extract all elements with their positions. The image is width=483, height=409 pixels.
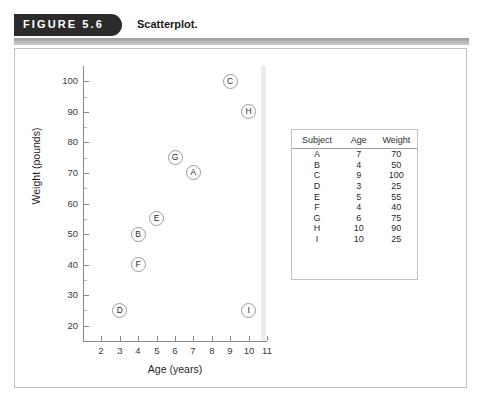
y-tick-100 xyxy=(84,81,89,82)
x-tick-6 xyxy=(175,336,176,341)
cell-weight: 55 xyxy=(376,191,417,202)
y-tick-label-60: 60 xyxy=(52,198,78,209)
y-tick-label-100: 100 xyxy=(52,75,78,86)
cell-weight: 25 xyxy=(376,181,417,192)
plot-right-shading xyxy=(261,66,266,342)
table-body: A770B450C9100D325E555F440G675H1090I1025 xyxy=(292,149,417,245)
y-tick-label-70: 70 xyxy=(52,167,78,178)
x-tick-2 xyxy=(101,336,102,341)
x-tick-11 xyxy=(267,336,268,341)
data-point-B: B xyxy=(131,227,146,242)
y-tick-label-20: 20 xyxy=(52,320,78,331)
data-point-G: G xyxy=(168,150,183,165)
cell-weight: 100 xyxy=(376,170,417,181)
figure-caption: Scatterplot. xyxy=(137,18,198,30)
cell-weight: 90 xyxy=(376,223,417,234)
y-tick-90 xyxy=(84,112,89,113)
header-divider xyxy=(14,38,469,45)
y-tick-85 xyxy=(84,127,87,128)
table-row: D325 xyxy=(292,181,417,192)
y-tick-35 xyxy=(84,280,87,281)
x-tick-8 xyxy=(212,336,213,341)
cell-weight: 25 xyxy=(376,234,417,245)
cell-subject: A xyxy=(292,149,342,160)
y-tick-label-80: 80 xyxy=(52,136,78,147)
cell-age: 10 xyxy=(342,223,376,234)
x-tick-5 xyxy=(157,336,158,341)
cell-subject: F xyxy=(292,202,342,213)
table-header-row: Subject Age Weight xyxy=(292,130,417,149)
figure-number-label: FIGURE 5.6 xyxy=(23,18,104,30)
y-tick-25 xyxy=(84,310,87,311)
y-tick-30 xyxy=(84,295,89,296)
column-header-subject: Subject xyxy=(292,130,342,149)
column-header-age: Age xyxy=(342,130,376,149)
x-tick-4 xyxy=(138,336,139,341)
x-tick-7 xyxy=(193,336,194,341)
cell-subject: B xyxy=(292,160,342,171)
cell-weight: 40 xyxy=(376,202,417,213)
cell-subject: D xyxy=(292,181,342,192)
y-tick-65 xyxy=(84,188,87,189)
cell-age: 5 xyxy=(342,191,376,202)
data-point-C: C xyxy=(223,74,238,89)
y-tick-55 xyxy=(84,219,87,220)
data-point-F: F xyxy=(131,257,146,272)
x-tick-3 xyxy=(120,336,121,341)
x-tick-label-8: 8 xyxy=(202,345,222,356)
table-row: B450 xyxy=(292,160,417,171)
y-tick-label-50: 50 xyxy=(52,228,78,239)
x-axis-line xyxy=(83,341,267,342)
y-tick-95 xyxy=(84,97,87,98)
cell-age: 10 xyxy=(342,234,376,245)
y-tick-50 xyxy=(84,234,89,235)
table-row: H1090 xyxy=(292,223,417,234)
x-axis-title: Age (years) xyxy=(83,363,267,375)
x-tick-label-10: 10 xyxy=(239,345,259,356)
table-row: F440 xyxy=(292,202,417,213)
x-tick-label-3: 3 xyxy=(110,345,130,356)
cell-subject: I xyxy=(292,234,342,245)
cell-subject: H xyxy=(292,223,342,234)
cell-weight: 50 xyxy=(376,160,417,171)
x-tick-label-11: 11 xyxy=(257,345,277,356)
x-tick-10 xyxy=(249,336,250,341)
data-table-container: Subject Age Weight A770B450C9100D325E555… xyxy=(291,129,418,280)
table-row: A770 xyxy=(292,149,417,160)
data-point-I: I xyxy=(241,303,256,318)
y-tick-label-40: 40 xyxy=(52,259,78,270)
figure-header: FIGURE 5.6 Scatterplot. xyxy=(14,14,469,36)
x-tick-label-2: 2 xyxy=(91,345,111,356)
x-tick-label-5: 5 xyxy=(147,345,167,356)
cell-weight: 75 xyxy=(376,213,417,224)
y-tick-75 xyxy=(84,158,87,159)
data-table: Subject Age Weight A770B450C9100D325E555… xyxy=(292,130,417,244)
table-row: C9100 xyxy=(292,170,417,181)
y-tick-70 xyxy=(84,173,89,174)
cell-age: 9 xyxy=(342,170,376,181)
y-tick-40 xyxy=(84,265,89,266)
table-row: I1025 xyxy=(292,234,417,245)
cell-age: 4 xyxy=(342,160,376,171)
cell-age: 4 xyxy=(342,202,376,213)
cell-weight: 70 xyxy=(376,149,417,160)
table-row: G675 xyxy=(292,213,417,224)
x-tick-label-4: 4 xyxy=(128,345,148,356)
table-row: E555 xyxy=(292,191,417,202)
column-header-weight: Weight xyxy=(376,130,417,149)
cell-subject: G xyxy=(292,213,342,224)
cell-age: 6 xyxy=(342,213,376,224)
y-tick-80 xyxy=(84,142,89,143)
y-tick-45 xyxy=(84,249,87,250)
y-tick-label-90: 90 xyxy=(52,106,78,117)
figure-number-tab: FIGURE 5.6 xyxy=(14,14,122,36)
cell-age: 7 xyxy=(342,149,376,160)
x-tick-label-6: 6 xyxy=(165,345,185,356)
y-axis-title: Weight (pounds) xyxy=(30,106,42,226)
cell-subject: E xyxy=(292,191,342,202)
x-tick-label-7: 7 xyxy=(183,345,203,356)
y-tick-label-30: 30 xyxy=(52,289,78,300)
x-tick-9 xyxy=(230,336,231,341)
cell-subject: C xyxy=(292,170,342,181)
y-tick-60 xyxy=(84,204,89,205)
